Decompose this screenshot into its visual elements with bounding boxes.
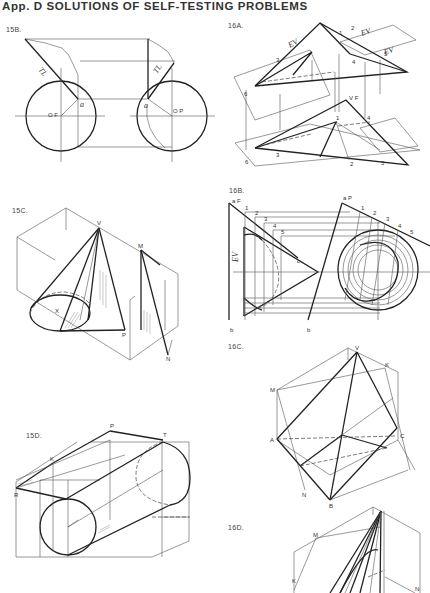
figure-16b-drawing: a F a P EV 1 2 3 4 5 c b b 1 2 3 4 5 <box>229 195 430 333</box>
svg-text:2: 2 <box>255 210 259 216</box>
svg-text:a: a <box>144 101 148 110</box>
svg-text:T: T <box>163 432 167 438</box>
svg-text:N: N <box>415 586 419 592</box>
svg-text:1: 1 <box>336 115 340 121</box>
svg-text:b: b <box>230 327 234 333</box>
svg-text:O P: O P <box>173 108 183 114</box>
svg-text:4: 4 <box>352 59 356 65</box>
svg-text:a F: a F <box>232 198 241 204</box>
svg-text:P: P <box>122 332 126 338</box>
svg-text:EV: EV <box>286 36 301 50</box>
svg-text:K: K <box>385 362 389 368</box>
svg-text:2: 2 <box>373 210 377 216</box>
figure-15b-drawing: TL TL a a O F O P <box>15 39 215 162</box>
svg-text:K: K <box>50 456 54 462</box>
svg-text:N: N <box>166 356 170 362</box>
figure-16c-drawing: V K M A C N B <box>270 345 415 509</box>
svg-text:M: M <box>270 387 275 393</box>
svg-text:3: 3 <box>276 152 280 158</box>
svg-text:6: 6 <box>244 91 248 97</box>
svg-text:P: P <box>110 423 114 429</box>
svg-text:2: 2 <box>350 161 354 167</box>
svg-text:b: b <box>307 327 311 333</box>
figure-15c-drawing: V M X P N <box>17 208 178 362</box>
svg-text:M: M <box>138 243 143 249</box>
figure-15d-drawing: P T K R <box>14 423 190 557</box>
svg-text:a: a <box>80 100 84 109</box>
svg-text:1: 1 <box>361 205 365 211</box>
figure-16d-drawing: M K N <box>292 507 420 593</box>
svg-text:TL: TL <box>36 66 49 79</box>
svg-text:c: c <box>297 258 300 264</box>
svg-text:6: 6 <box>245 159 249 165</box>
svg-text:1: 1 <box>245 205 249 211</box>
svg-text:V: V <box>355 345 359 351</box>
svg-text:4: 4 <box>367 115 371 121</box>
svg-text:K: K <box>292 578 296 584</box>
drawing-canvas: TL TL a a O F O P EV EV <box>0 0 430 593</box>
svg-text:V: V <box>97 220 101 226</box>
svg-text:V F: V F <box>349 95 359 101</box>
svg-text:4: 4 <box>273 223 277 229</box>
svg-text:X: X <box>55 308 59 314</box>
figure-16a-drawing: EV EV EV 1 2 3 4 5 6 6 1 2 3 4 5 V F <box>234 23 420 167</box>
svg-text:EV: EV <box>359 26 373 39</box>
svg-text:B: B <box>329 503 333 509</box>
svg-text:5: 5 <box>410 229 414 235</box>
svg-text:a P: a P <box>343 195 352 201</box>
svg-text:A: A <box>270 437 274 443</box>
svg-text:O F: O F <box>48 112 58 118</box>
svg-text:3: 3 <box>386 216 390 222</box>
svg-text:2: 2 <box>351 25 355 31</box>
svg-text:M: M <box>313 532 318 538</box>
svg-text:TL: TL <box>151 62 164 75</box>
svg-text:4: 4 <box>398 223 402 229</box>
svg-text:EV: EV <box>231 251 240 263</box>
svg-text:C: C <box>400 433 405 439</box>
svg-text:N: N <box>302 492 306 498</box>
svg-text:R: R <box>14 492 19 498</box>
